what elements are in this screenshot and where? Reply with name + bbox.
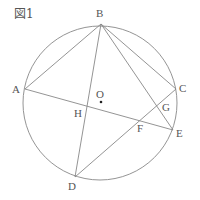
label-c: C xyxy=(179,82,186,94)
geometry-figure: A B C D E O H F G xyxy=(0,0,200,200)
label-h: H xyxy=(74,107,82,119)
label-f: F xyxy=(137,122,143,134)
label-g: G xyxy=(162,101,170,113)
segment-bd xyxy=(75,24,101,177)
label-e: E xyxy=(176,127,183,139)
segment-dc xyxy=(75,89,176,177)
center-point-o xyxy=(100,101,103,104)
label-a: A xyxy=(12,83,20,95)
circle-o xyxy=(23,26,177,180)
label-d: D xyxy=(68,180,76,192)
label-b: B xyxy=(96,7,103,19)
segment-ab xyxy=(25,24,101,89)
label-o: O xyxy=(96,88,104,100)
